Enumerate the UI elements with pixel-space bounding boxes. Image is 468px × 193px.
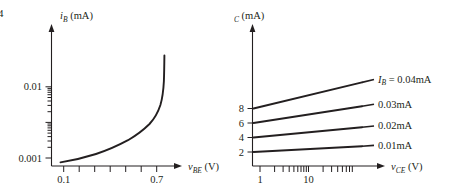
y-tick-label-2: 4 (239, 132, 245, 143)
curve-label-004: IB = 0.04mA (377, 74, 432, 88)
y-axis-ic (250, 24, 256, 166)
y-axis-label-ic-unit: (mA) (242, 10, 265, 22)
curve-ib-004 (254, 82, 363, 108)
y-axis-label-ib-unit: (mA) (70, 10, 93, 22)
y-ticks-ib (46, 87, 52, 158)
lead-line-002 (362, 126, 374, 127)
chart-ic-vce: 8 6 4 2 (234, 0, 468, 193)
lead-line-003 (362, 104, 374, 106)
x-ticks-vce (260, 166, 352, 172)
lead-line-001 (362, 145, 374, 146)
curve-label-003: 0.03mA (378, 99, 413, 110)
curve-label-004-value: 0.04mA (397, 74, 432, 85)
x-ticks-vbe (64, 166, 157, 172)
y-tick-label-0: 0.01 (24, 81, 42, 92)
chart-ic-vce-svg: 8 6 4 2 (234, 0, 468, 193)
y-tick-label-3: 2 (239, 147, 244, 158)
x-tick-label-1: 0.7 (150, 174, 163, 185)
x-tick-label-1: 10 (303, 174, 314, 185)
y-axis-label-ic: iC (mA) (234, 10, 265, 24)
curve-ib-002 (254, 127, 363, 137)
curve-ib (61, 56, 165, 163)
x-axis-label-vce-sub: CE (396, 166, 406, 175)
x-axis-vce (253, 163, 386, 169)
curve-ib-003 (254, 106, 363, 123)
y-axis-label-ib: iB (mA) (60, 10, 93, 24)
chart-ib-vbe-svg: 0.01 0.001 0.1 0.7 iB (mA) (0, 0, 234, 193)
x-axis-label-vce-unit: (V) (408, 161, 423, 173)
x-axis-vbe (52, 163, 183, 169)
x-axis-label-vbe: vBE (V) (188, 161, 220, 175)
lead-line-004 (362, 80, 374, 83)
x-tick-label-0: 0.1 (57, 174, 70, 185)
y-tick-label-1: 0.001 (18, 153, 42, 164)
chart-ib-vbe: 0.01 0.001 0.1 0.7 iB (mA) (0, 0, 234, 193)
curve-ib-001 (254, 146, 363, 152)
y-tick-label-1: 6 (239, 118, 244, 129)
figure-container: 4 (0, 0, 468, 193)
x-axis-label-vbe-sub: BE (193, 166, 203, 175)
y-ticks-ic (248, 109, 253, 153)
x-axis-label-vce: vCE (V) (391, 161, 423, 175)
curve-label-001: 0.01mA (378, 140, 413, 151)
x-axis-label-vbe-unit: (V) (204, 161, 219, 173)
curve-label-004-eq: = (386, 74, 397, 85)
y-tick-label-0: 8 (239, 103, 244, 114)
x-tick-label-0: 1 (257, 174, 262, 185)
curve-label-002: 0.02mA (378, 120, 413, 131)
